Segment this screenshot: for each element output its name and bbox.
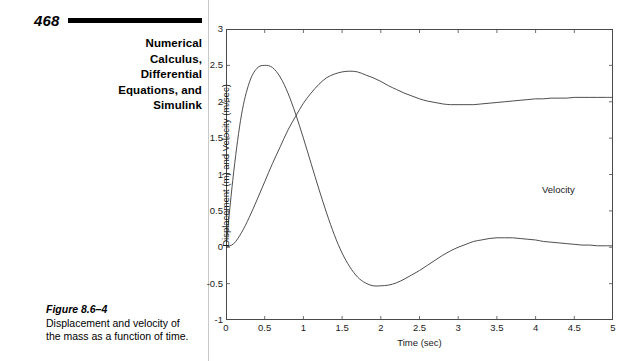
figure-caption-title: Figure 8.6–4 — [46, 303, 196, 316]
x-tick-label: 3.5 — [490, 323, 503, 333]
figure-caption: Figure 8.6–4 Displacement and velocity o… — [46, 303, 196, 342]
figure-chart: -1-0.500.511.522.53 00.511.522.533.544.5… — [208, 0, 629, 361]
x-tick-label: 4.5 — [568, 323, 581, 333]
x-tick-label: 2 — [378, 323, 383, 333]
x-tick-label: 0.5 — [258, 323, 271, 333]
book-page-left-column: 468 Numerical Calculus, Differential Equ… — [0, 0, 208, 361]
x-tick-label: 3 — [456, 323, 461, 333]
figure-caption-text: Displacement and velocity of the mass as… — [46, 317, 196, 342]
chapter-title: Numerical Calculus, Differential Equatio… — [34, 36, 202, 114]
tick-marks — [226, 29, 613, 320]
chapter-title-line-5: Simulink — [34, 98, 202, 114]
header-rule — [68, 18, 202, 23]
chart-plot-area — [226, 29, 613, 320]
chapter-title-line-2: Calculus, — [34, 52, 202, 68]
y-tick-label: -0.5 — [207, 279, 223, 289]
x-axis-tick-labels: 00.511.522.533.544.55 — [209, 323, 629, 337]
curve-displacement — [226, 71, 613, 247]
x-tick-label: 4 — [533, 323, 538, 333]
page-number: 468 — [34, 12, 60, 30]
chapter-title-line-3: Differential — [34, 67, 202, 83]
chapter-title-line-4: Equations, and — [34, 83, 202, 99]
y-tick-label: 3 — [218, 24, 223, 34]
annotation-velocity: Velocity — [542, 184, 575, 195]
x-axis-title: Time (sec) — [226, 337, 613, 348]
x-tick-label: 5 — [610, 323, 615, 333]
y-axis-title: Displacement (m) and Velocity (m/sec) — [220, 66, 231, 266]
page-header: 468 — [34, 12, 202, 30]
chapter-title-line-1: Numerical — [34, 36, 202, 52]
x-tick-label: 2.5 — [413, 323, 426, 333]
x-tick-label: 1 — [301, 323, 306, 333]
x-tick-label: 1.5 — [335, 323, 348, 333]
x-tick-label: 0 — [223, 323, 228, 333]
